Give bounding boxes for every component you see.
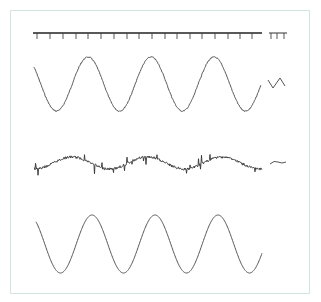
waveform-diagram [0, 0, 321, 302]
time-ruler [33, 33, 262, 39]
bottom-sine-trace [36, 215, 262, 273]
ruler-legend-icon [269, 33, 287, 39]
noisy-sine-trace [34, 154, 262, 175]
zigzag-legend-icon [268, 78, 285, 88]
small-wave-legend-icon [270, 161, 286, 164]
top-sine-trace [34, 56, 261, 111]
